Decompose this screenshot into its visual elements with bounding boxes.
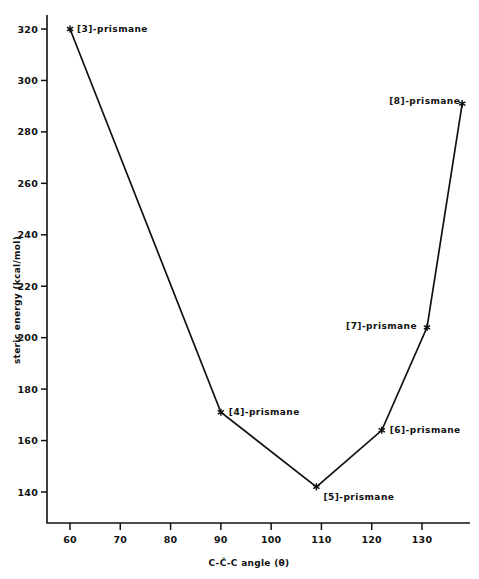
y-axis-title: steric energy (kcal/mol) [12, 236, 22, 364]
chart-figure: 140160180200220240260280300320 607080901… [0, 0, 479, 579]
point-label-3-prismane: [3]-prismane [77, 24, 148, 34]
point-label-8-prismane: [8]-prismane [389, 96, 460, 106]
x-axis-title: C-Ĉ-C angle (θ) [209, 557, 290, 568]
point-label-4-prismane: [4]-prismane [229, 407, 300, 417]
point-label-5-prismane: [5]-prismane [323, 492, 394, 502]
chart-background [0, 0, 479, 579]
y-tick-label: 300 [18, 75, 39, 86]
x-tick-label: 110 [311, 534, 332, 545]
x-tick-label: 60 [63, 534, 77, 545]
steric-energy-vs-angle-chart: 140160180200220240260280300320 607080901… [0, 0, 479, 579]
point-label-7-prismane: [7]-prismane [346, 321, 417, 331]
x-tick-label: 70 [113, 534, 127, 545]
y-tick-label: 280 [18, 126, 39, 137]
x-tick-label: 80 [164, 534, 178, 545]
x-tick-label: 90 [214, 534, 228, 545]
x-tick-label: 120 [361, 534, 382, 545]
x-tick-label: 130 [412, 534, 433, 545]
y-tick-label: 320 [18, 24, 39, 35]
y-tick-label: 260 [18, 178, 39, 189]
y-tick-label: 140 [18, 487, 39, 498]
x-tick-label: 100 [261, 534, 282, 545]
y-tick-label: 160 [18, 435, 39, 446]
point-label-6-prismane: [6]-prismane [390, 425, 461, 435]
y-tick-label: 180 [18, 384, 39, 395]
